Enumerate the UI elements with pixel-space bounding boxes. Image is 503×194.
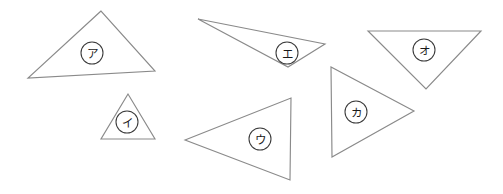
triangle-u-label-text: ウ: [255, 133, 266, 147]
triangle-i-label-text: イ: [122, 116, 133, 130]
triangle-a-label-text: ア: [87, 47, 98, 61]
triangle-o-label-text: オ: [419, 44, 430, 58]
triangle-e-label-text: エ: [282, 47, 293, 61]
triangles-diagram: アイウエオカ: [0, 0, 503, 194]
triangle-ka-label-text: カ: [351, 106, 362, 120]
geometry-figure-canvas: アイウエオカ: [0, 0, 503, 194]
